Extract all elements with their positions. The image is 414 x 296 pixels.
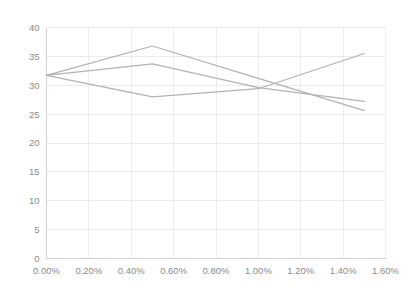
x-axis-tick-label: 1.00% — [245, 265, 272, 276]
x-axis-tick-label: 0.60% — [160, 265, 187, 276]
y-axis-tick-label: 15 — [29, 166, 40, 177]
y-axis-tick-label: 25 — [29, 109, 40, 120]
line-chart: 0510152025303540 0.00%0.20%0.40%0.60%0.8… — [0, 0, 414, 296]
x-axis-tick-label: 1.40% — [330, 265, 357, 276]
y-axis-tick-label: 35 — [29, 51, 40, 62]
x-axis-tick-label: 0.20% — [75, 265, 102, 276]
x-axis-tick-label: 0.80% — [203, 265, 230, 276]
chart-canvas: 0510152025303540 0.00%0.20%0.40%0.60%0.8… — [0, 0, 414, 296]
x-axis-tick-label: 0.00% — [33, 265, 60, 276]
x-axis-tick-label: 1.60% — [372, 265, 399, 276]
y-axis-tick-label: 5 — [34, 224, 39, 235]
x-axis-tick-label: 1.20% — [287, 265, 314, 276]
data-series-group — [47, 46, 365, 111]
y-axis-tick-label: 10 — [29, 195, 40, 206]
x-axis-tick-label: 0.40% — [118, 265, 145, 276]
y-axis-tick-label: 0 — [34, 253, 39, 264]
y-axis-tick-labels: 0510152025303540 — [29, 22, 40, 264]
series-line-1 — [47, 46, 365, 111]
y-axis-tick-label: 20 — [29, 137, 40, 148]
y-axis-tick-label: 30 — [29, 80, 40, 91]
y-axis-tick-label: 40 — [29, 22, 40, 33]
x-axis-tick-labels: 0.00%0.20%0.40%0.60%0.80%1.00%1.20%1.40%… — [33, 265, 399, 276]
